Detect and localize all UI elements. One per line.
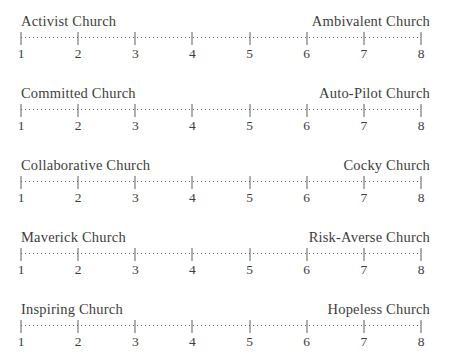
ruler-tick	[135, 320, 136, 333]
scale-labels: Activist Church Ambivalent Church	[21, 13, 430, 29]
tick-number: 7	[360, 263, 367, 277]
ruler-tick	[249, 32, 250, 45]
ruler-tick	[249, 248, 250, 261]
tick-number: 1	[18, 335, 25, 349]
ruler-tick	[21, 176, 22, 189]
tick-number: 1	[18, 191, 25, 205]
tick-number: 2	[75, 191, 82, 205]
tick-number: 7	[360, 47, 367, 61]
tick-number: 6	[303, 47, 310, 61]
tick-number: 8	[418, 263, 425, 277]
ruler-tick	[135, 176, 136, 189]
tick-number: 8	[418, 335, 425, 349]
scale-ruler	[21, 104, 421, 117]
tick-number: 1	[18, 263, 25, 277]
ruler-tick	[192, 176, 193, 189]
tick-number: 4	[189, 47, 196, 61]
tick-number: 5	[246, 263, 253, 277]
ruler-tick	[249, 104, 250, 117]
tick-number: 5	[246, 47, 253, 61]
ruler-tick	[421, 32, 422, 45]
scale-labels: Collaborative Church Cocky Church	[21, 157, 430, 173]
scales-list: Activist Church Ambivalent Church 123456…	[21, 13, 451, 349]
ruler-tick	[135, 32, 136, 45]
ruler-tick	[21, 104, 22, 117]
rating-scales-page: Activist Church Ambivalent Church 123456…	[0, 0, 451, 363]
tick-number: 5	[246, 191, 253, 205]
ruler-tick	[421, 320, 422, 333]
scale-left-label: Inspiring Church	[21, 301, 123, 317]
scale-labels: Inspiring Church Hopeless Church	[21, 301, 430, 317]
tick-number: 6	[303, 119, 310, 133]
scale-labels: Committed Church Auto-Pilot Church	[21, 85, 430, 101]
tick-number: 4	[189, 191, 196, 205]
scale-left-label: Activist Church	[21, 13, 116, 29]
tick-number: 4	[189, 263, 196, 277]
tick-number: 8	[418, 47, 425, 61]
ruler-tick	[78, 176, 79, 189]
tick-number: 2	[75, 119, 82, 133]
scale-right-label: Risk-Averse Church	[309, 229, 430, 245]
scale-right-label: Cocky Church	[343, 157, 430, 173]
ruler-dotted-line	[21, 325, 421, 326]
scale-row: Maverick Church Risk-Averse Church 12345…	[21, 229, 421, 277]
tick-number: 2	[75, 47, 82, 61]
ruler-tick	[363, 32, 364, 45]
tick-number: 4	[189, 119, 196, 133]
tick-number: 2	[75, 263, 82, 277]
ruler-tick	[135, 248, 136, 261]
ruler-tick	[192, 248, 193, 261]
tick-number: 2	[75, 335, 82, 349]
ruler-tick	[306, 248, 307, 261]
tick-number: 3	[132, 335, 139, 349]
scale-left-label: Collaborative Church	[21, 157, 150, 173]
tick-number: 6	[303, 263, 310, 277]
scale-ruler	[21, 176, 421, 189]
ruler-tick	[249, 320, 250, 333]
ruler-tick	[21, 320, 22, 333]
ruler-tick	[306, 32, 307, 45]
scale-numbers: 12345678	[21, 119, 421, 133]
scale-ruler	[21, 320, 421, 333]
scale-ruler	[21, 248, 421, 261]
ruler-dotted-line	[21, 109, 421, 110]
tick-number: 5	[246, 119, 253, 133]
ruler-tick	[306, 176, 307, 189]
tick-number: 6	[303, 335, 310, 349]
tick-number: 3	[132, 191, 139, 205]
tick-number: 6	[303, 191, 310, 205]
scale-ruler	[21, 32, 421, 45]
ruler-tick	[78, 104, 79, 117]
tick-number: 8	[418, 119, 425, 133]
scale-row: Inspiring Church Hopeless Church 1234567…	[21, 301, 421, 349]
ruler-tick	[421, 104, 422, 117]
ruler-dotted-line	[21, 37, 421, 38]
ruler-tick	[363, 176, 364, 189]
scale-left-label: Maverick Church	[21, 229, 126, 245]
ruler-tick	[306, 320, 307, 333]
ruler-tick	[363, 104, 364, 117]
ruler-dotted-line	[21, 253, 421, 254]
scale-numbers: 12345678	[21, 47, 421, 61]
ruler-tick	[21, 32, 22, 45]
tick-number: 4	[189, 335, 196, 349]
ruler-tick	[192, 320, 193, 333]
scale-numbers: 12345678	[21, 263, 421, 277]
ruler-tick	[363, 248, 364, 261]
scale-right-label: Ambivalent Church	[312, 13, 430, 29]
scale-numbers: 12345678	[21, 335, 421, 349]
tick-number: 8	[418, 191, 425, 205]
ruler-tick	[192, 32, 193, 45]
scale-right-label: Hopeless Church	[328, 301, 430, 317]
ruler-dotted-line	[21, 181, 421, 182]
ruler-tick	[135, 104, 136, 117]
ruler-tick	[306, 104, 307, 117]
tick-number: 1	[18, 47, 25, 61]
scale-labels: Maverick Church Risk-Averse Church	[21, 229, 430, 245]
tick-number: 5	[246, 335, 253, 349]
scale-left-label: Committed Church	[21, 85, 136, 101]
ruler-tick	[78, 248, 79, 261]
tick-number: 7	[360, 119, 367, 133]
tick-number: 3	[132, 47, 139, 61]
scale-numbers: 12345678	[21, 191, 421, 205]
